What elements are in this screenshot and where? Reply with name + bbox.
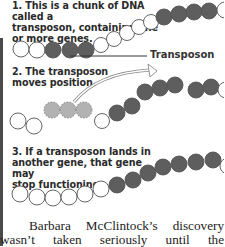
empty-segment-icon <box>77 186 93 202</box>
dna-chain-2 <box>10 77 224 134</box>
empty-segment-icon <box>61 189 77 205</box>
empty-segment-icon <box>217 2 224 18</box>
ghost-segment-icon <box>60 102 76 118</box>
empty-segment-icon <box>29 42 45 58</box>
body-paragraph: Barbara McClintock’s discovery wasn’t ta… <box>0 219 224 247</box>
empty-segment-icon <box>10 113 26 129</box>
empty-segment-icon <box>95 114 110 129</box>
gene-segment-icon <box>171 156 187 172</box>
gene-segment-icon <box>203 79 219 95</box>
gene-segment-icon <box>188 82 204 98</box>
dna-chain-1 <box>13 2 224 58</box>
empty-segment-icon <box>45 190 61 206</box>
gene-segment-icon <box>205 152 221 168</box>
ghost-segment-icon <box>44 102 60 118</box>
empty-segment-icon <box>93 181 109 197</box>
gene-segment-icon <box>167 77 183 93</box>
empty-segment-icon <box>26 118 42 134</box>
empty-segment-icon <box>29 189 45 205</box>
gene-segment-icon <box>152 80 168 96</box>
gene-segment-icon <box>155 159 171 175</box>
dna-chain-3 <box>12 152 224 206</box>
gene-segment-icon <box>186 4 202 20</box>
gene-segment-icon <box>156 9 172 25</box>
gene-segment-icon <box>109 177 125 193</box>
gene-segment-icon <box>140 165 156 181</box>
gene-segment-icon <box>125 172 141 188</box>
ghost-segment-icon <box>76 102 92 118</box>
gene-segment-icon <box>109 105 125 121</box>
empty-segment-icon <box>13 41 29 57</box>
gene-segment-icon <box>124 98 140 114</box>
gene-segment-icon <box>137 84 153 100</box>
body-paragraph-text: Barbara McClintock’s discovery wasn’t ta… <box>0 219 224 247</box>
gene-segment-icon <box>201 3 217 19</box>
gene-segment-icon <box>188 154 204 170</box>
gene-segment-icon <box>45 42 61 58</box>
gene-segment-icon <box>171 6 187 22</box>
empty-segment-icon <box>12 186 28 202</box>
